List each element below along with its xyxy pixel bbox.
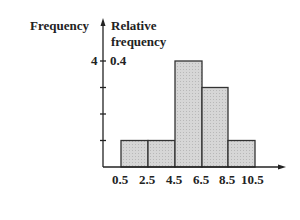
x-tick-label: 2.5	[139, 173, 155, 187]
y-axis-label-relative-2: frequency	[111, 35, 166, 49]
y-axis-arrow-icon	[101, 18, 106, 26]
y-tick-label-left: 4	[91, 54, 98, 68]
x-tick-label: 0.5	[112, 173, 128, 187]
y-tick-label-right: 0.4	[110, 54, 126, 68]
x-tick-label: 8.5	[219, 173, 235, 187]
y-axis-label-relative-1: Relative	[111, 19, 156, 33]
histogram-bars	[121, 61, 255, 167]
bar-2.5-4.5	[148, 141, 175, 168]
bar-4.5-6.5	[175, 61, 202, 167]
x-tick-label: 6.5	[193, 173, 209, 187]
y-axis-label-frequency: Frequency	[30, 19, 89, 33]
x-axis-arrow-icon	[278, 165, 286, 170]
bar-6.5-8.5	[202, 88, 228, 168]
x-tick-label: 10.5	[241, 173, 264, 187]
bar-8.5-10.5	[228, 141, 255, 168]
x-tick-label: 4.5	[166, 173, 182, 187]
histogram-plot	[0, 0, 300, 220]
y-axis	[100, 24, 106, 167]
bar-0.5-2.5	[121, 141, 148, 168]
